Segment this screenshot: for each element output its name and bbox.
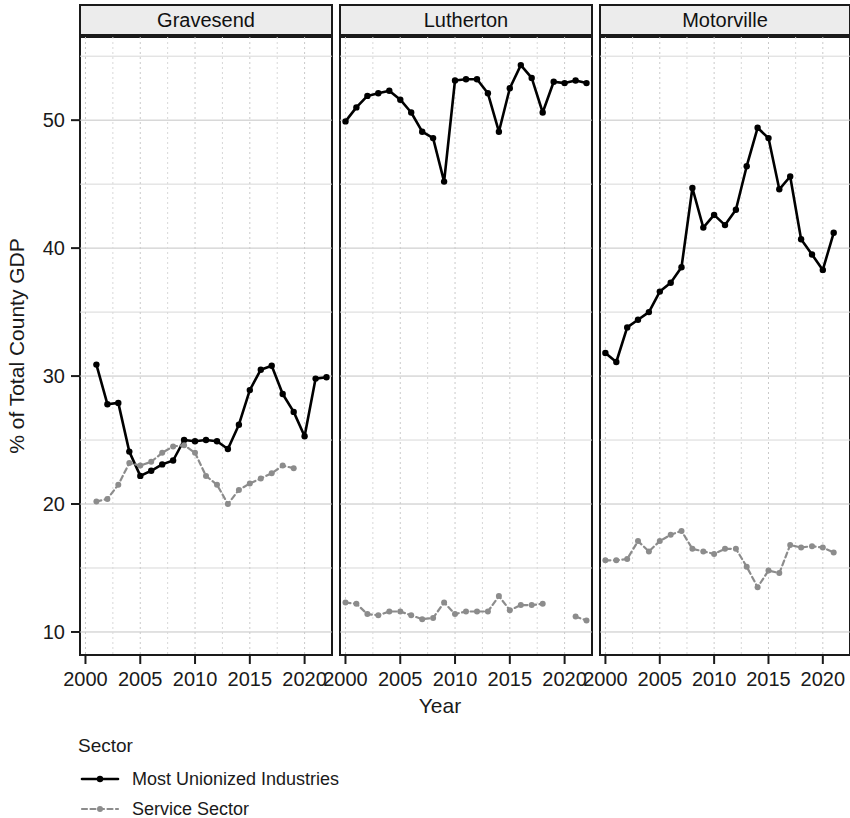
x-tick-label: 2000	[63, 668, 108, 690]
data-point-service-sector	[419, 616, 425, 622]
data-point-most-unionized-industries	[137, 473, 143, 479]
x-tick-label: 2010	[433, 668, 478, 690]
data-point-service-sector	[192, 450, 198, 456]
data-point-most-unionized-industries	[583, 80, 589, 86]
data-point-most-unionized-industries	[485, 90, 491, 96]
data-point-service-sector	[159, 450, 165, 456]
data-point-most-unionized-industries	[280, 391, 286, 397]
y-tick-label: 10	[43, 621, 65, 643]
data-point-most-unionized-industries	[408, 109, 414, 115]
panel-frame-lutherton	[340, 37, 592, 655]
data-point-most-unionized-industries	[551, 79, 557, 85]
data-point-service-sector	[364, 611, 370, 617]
data-point-service-sector	[137, 463, 143, 469]
panel-motorville: Motorville20002005201020152020	[583, 5, 850, 690]
data-point-most-unionized-industries	[831, 230, 837, 236]
data-point-service-sector	[247, 481, 253, 487]
data-point-service-sector	[291, 465, 297, 471]
data-point-service-sector	[280, 463, 286, 469]
data-point-service-sector	[820, 545, 826, 551]
data-point-service-sector	[430, 615, 436, 621]
data-point-service-sector	[386, 609, 392, 615]
data-point-service-sector	[507, 607, 513, 613]
data-point-service-sector	[689, 546, 695, 552]
data-point-service-sector	[584, 618, 590, 624]
x-axis-title: Year	[419, 694, 461, 717]
data-point-service-sector	[408, 612, 414, 618]
x-tick-label: 2000	[583, 668, 628, 690]
data-point-service-sector	[831, 550, 837, 556]
data-point-service-sector	[613, 557, 619, 563]
data-point-most-unionized-industries	[170, 457, 176, 463]
data-point-most-unionized-industries	[496, 129, 502, 135]
data-point-most-unionized-industries	[159, 461, 165, 467]
x-tick-label: 2015	[746, 668, 791, 690]
data-point-service-sector	[733, 546, 739, 552]
data-point-service-sector	[203, 473, 209, 479]
data-point-most-unionized-industries	[711, 212, 717, 218]
data-point-most-unionized-industries	[518, 62, 524, 68]
data-point-most-unionized-industries	[364, 93, 370, 99]
data-point-most-unionized-industries	[754, 125, 760, 131]
data-point-most-unionized-industries	[247, 387, 253, 393]
y-tick-label: 30	[43, 365, 65, 387]
data-point-most-unionized-industries	[657, 288, 663, 294]
data-point-service-sector	[343, 600, 349, 606]
y-axis-title: % of Total County GDP	[5, 238, 28, 454]
data-point-most-unionized-industries	[291, 409, 297, 415]
data-point-service-sector	[474, 609, 480, 615]
data-point-most-unionized-industries	[507, 85, 513, 91]
data-point-service-sector	[798, 545, 804, 551]
data-point-service-sector	[225, 501, 231, 507]
y-tick-label: 40	[43, 237, 65, 259]
panel-title-gravesend: Gravesend	[157, 9, 255, 31]
data-point-most-unionized-industries	[646, 309, 652, 315]
panel-lutherton: Lutherton20002005201020152020	[323, 5, 592, 690]
data-point-service-sector	[766, 568, 772, 574]
data-point-most-unionized-industries	[744, 163, 750, 169]
panel-title-lutherton: Lutherton	[424, 9, 509, 31]
data-point-service-sector	[353, 601, 359, 607]
data-point-most-unionized-industries	[787, 173, 793, 179]
data-point-service-sector	[397, 609, 403, 615]
data-point-most-unionized-industries	[236, 422, 242, 428]
data-point-most-unionized-industries	[258, 367, 264, 373]
panel-title-motorville: Motorville	[682, 9, 768, 31]
data-point-service-sector	[148, 459, 154, 465]
data-point-most-unionized-industries	[375, 90, 381, 96]
data-point-most-unionized-industries	[722, 222, 728, 228]
panel-gravesend: Gravesend20002005201020152020	[63, 5, 332, 690]
data-point-most-unionized-industries	[776, 186, 782, 192]
legend-key-marker	[97, 776, 103, 782]
x-tick-label: 2000	[323, 668, 368, 690]
data-point-most-unionized-industries	[668, 280, 674, 286]
x-tick-label: 2020	[801, 668, 846, 690]
data-point-most-unionized-industries	[323, 374, 329, 380]
x-tick-label: 2020	[282, 668, 327, 690]
data-point-service-sector	[776, 570, 782, 576]
data-point-most-unionized-industries	[419, 129, 425, 135]
x-tick-label: 2015	[228, 668, 273, 690]
chart-figure: Gravesend20002005201020152020Lutherton20…	[0, 0, 850, 818]
data-point-most-unionized-industries	[700, 224, 706, 230]
data-point-most-unionized-industries	[441, 178, 447, 184]
data-point-service-sector	[236, 487, 242, 493]
data-point-service-sector	[93, 499, 99, 505]
data-point-service-sector	[529, 602, 535, 608]
data-point-service-sector	[668, 532, 674, 538]
data-point-most-unionized-industries	[397, 97, 403, 103]
faceted-line-chart: Gravesend20002005201020152020Lutherton20…	[0, 0, 850, 818]
data-point-most-unionized-industries	[342, 118, 348, 124]
data-point-most-unionized-industries	[820, 267, 826, 273]
legend-entry-label: Service Sector	[132, 799, 249, 818]
data-point-most-unionized-industries	[602, 350, 608, 356]
legend-key-marker	[97, 806, 103, 812]
data-point-most-unionized-industries	[126, 448, 132, 454]
data-point-service-sector	[602, 557, 608, 563]
data-point-service-sector	[722, 546, 728, 552]
data-point-service-sector	[181, 442, 187, 448]
data-point-most-unionized-industries	[798, 236, 804, 242]
data-point-most-unionized-industries	[678, 264, 684, 270]
data-point-service-sector	[452, 611, 458, 617]
data-point-service-sector	[463, 609, 469, 615]
